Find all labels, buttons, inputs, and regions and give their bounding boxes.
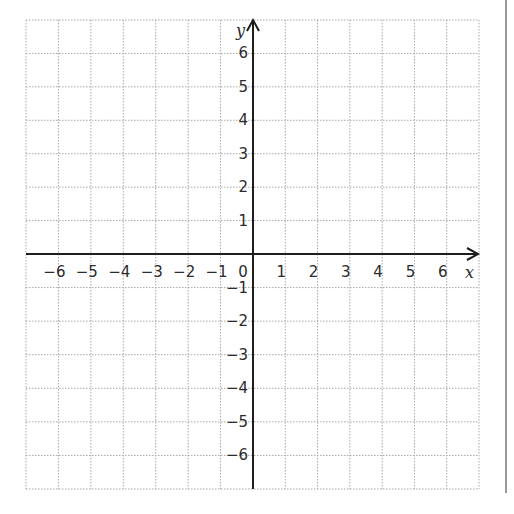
x-axis-name: x <box>465 263 474 282</box>
y-tick-label: 2 <box>238 178 248 196</box>
axes <box>26 20 478 489</box>
x-tick-label: −3 <box>141 263 163 281</box>
y-tick-label: −3 <box>226 346 248 364</box>
y-tick-label: 3 <box>238 145 248 163</box>
x-tick-label: −5 <box>76 263 98 281</box>
x-tick-label: 1 <box>277 263 287 281</box>
x-tick-label: 2 <box>309 263 319 281</box>
y-tick-label: 1 <box>238 212 248 230</box>
y-tick-label: 6 <box>238 44 248 62</box>
y-tick-label: −4 <box>226 379 248 397</box>
x-tick-label: −6 <box>43 263 65 281</box>
y-tick-label: −5 <box>226 413 248 431</box>
y-tick-label: −2 <box>226 312 248 330</box>
x-tick-label: −1 <box>206 263 228 281</box>
x-tick-label: 3 <box>341 263 351 281</box>
x-tick-label: 5 <box>406 263 416 281</box>
y-tick-label: −6 <box>226 446 248 464</box>
x-tick-label: 4 <box>373 263 383 281</box>
y-tick-label: 5 <box>238 78 248 96</box>
coordinate-plane: −6−5−4−3−2−10123456 −6−5−4−3−2−1123456 x… <box>0 0 514 514</box>
y-axis-name: y <box>235 21 246 40</box>
y-tick-label: −1 <box>226 279 248 297</box>
x-tick-label: −4 <box>108 263 130 281</box>
y-tick-label: 4 <box>238 111 248 129</box>
x-tick-label: −2 <box>173 263 195 281</box>
x-tick-label: 6 <box>438 263 448 281</box>
plot-canvas: −6−5−4−3−2−10123456 −6−5−4−3−2−1123456 x… <box>0 0 514 514</box>
